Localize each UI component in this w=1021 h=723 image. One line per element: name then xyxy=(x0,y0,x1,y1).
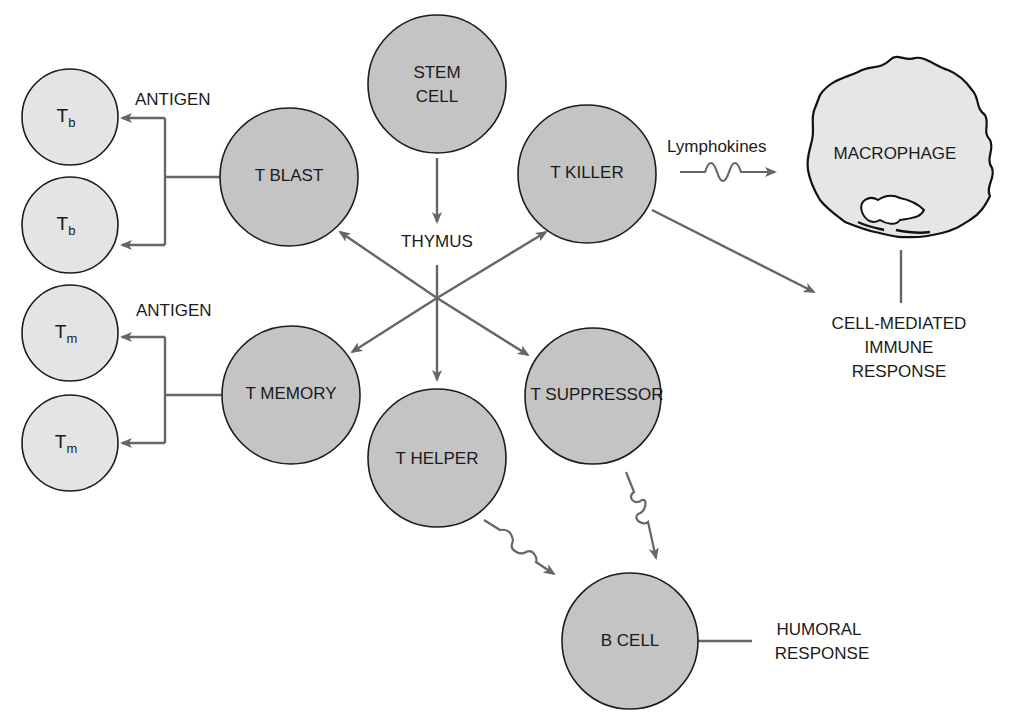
t-suppressor-label: T SUPPRESSOR xyxy=(531,385,664,404)
t-helper-node[interactable]: T HELPER xyxy=(368,389,506,527)
tb-1-sub: b xyxy=(68,115,75,130)
tb-2-main: T xyxy=(57,213,69,234)
humoral-line1: HUMORAL xyxy=(776,620,861,639)
t-helper-label: T HELPER xyxy=(396,449,479,468)
t-cell-differentiation-diagram: Tb Tb Tm Tm STEM CELL T BLAST T KILLER T… xyxy=(0,0,1021,723)
tm-1-sub: m xyxy=(66,331,77,346)
macrophage-label: MACROPHAGE xyxy=(834,144,957,163)
t-suppressor-node[interactable]: T SUPPRESSOR xyxy=(525,328,663,464)
tb-1-main: T xyxy=(57,105,69,126)
lymphokines-label: Lymphokines xyxy=(667,137,767,156)
t-memory-node[interactable]: T MEMORY xyxy=(222,326,360,464)
thymus-label: THYMUS xyxy=(401,232,473,251)
t-blast-node[interactable]: T BLAST xyxy=(220,108,358,246)
tb-cell-1[interactable]: Tb xyxy=(22,69,118,165)
macrophage-node[interactable]: MACROPHAGE xyxy=(807,57,992,237)
cell-mediated-line3: RESPONSE xyxy=(852,362,946,381)
arrow-thymus-to-t-suppressor xyxy=(437,298,528,355)
cell-mediated-line2: IMMUNE xyxy=(865,338,934,357)
b-cell-label: B CELL xyxy=(601,631,660,650)
stem-cell-label-line1: STEM xyxy=(413,63,460,82)
arrow-t-killer-to-cell-mediated xyxy=(652,210,814,292)
b-cell-node[interactable]: B CELL xyxy=(562,573,698,709)
tm-2-main: T xyxy=(55,431,67,452)
tm-cell-2[interactable]: Tm xyxy=(22,395,118,491)
tb-2-sub: b xyxy=(68,223,75,238)
t-memory-label: T MEMORY xyxy=(246,384,337,403)
wavy-arrow-t-suppressor-to-b-cell xyxy=(626,472,656,558)
humoral-line2: RESPONSE xyxy=(775,644,869,663)
wavy-arrow-lymphokines xyxy=(680,163,775,181)
t-blast-label: T BLAST xyxy=(255,166,324,185)
antigen-label-top: ANTIGEN xyxy=(135,90,211,109)
cell-mediated-response-label: CELL-MEDIATED IMMUNE RESPONSE xyxy=(832,314,967,381)
cell-mediated-line1: CELL-MEDIATED xyxy=(832,314,967,333)
antigen-label-bottom: ANTIGEN xyxy=(136,301,212,320)
tm-cell-1[interactable]: Tm xyxy=(22,285,118,381)
arrow-thymus-to-t-memory xyxy=(352,298,437,352)
stem-cell-node[interactable]: STEM CELL xyxy=(368,15,506,153)
tm-2-sub: m xyxy=(66,441,77,456)
t-killer-node[interactable]: T KILLER xyxy=(518,105,656,243)
t-killer-label: T KILLER xyxy=(550,163,623,182)
wavy-arrow-t-helper-to-b-cell xyxy=(484,520,554,574)
stem-cell-label-line2: CELL xyxy=(416,87,459,106)
tm-1-main: T xyxy=(55,321,67,342)
tb-cell-2[interactable]: Tb xyxy=(22,177,118,273)
humoral-response-label: HUMORAL RESPONSE xyxy=(775,620,869,663)
